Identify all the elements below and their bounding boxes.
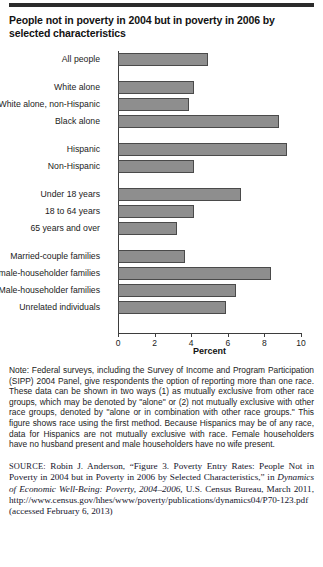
bar-category-label: Under 18 years — [41, 186, 100, 203]
bar — [118, 188, 241, 201]
figure-container: People not in poverty in 2004 but in pov… — [0, 3, 323, 567]
x-axis-tick — [301, 333, 302, 337]
bar-category-label: Black alone — [55, 113, 100, 130]
plot-area: All peopleWhite aloneWhite alone, non-Hi… — [9, 51, 314, 333]
bar-row: All people — [9, 51, 314, 68]
bar — [118, 98, 189, 111]
bar-track — [118, 81, 314, 94]
bar-row: Unrelated individuals — [9, 299, 314, 316]
bar-track — [118, 205, 314, 218]
bar-row: Female-householder families — [9, 265, 314, 282]
bar-category-label: Female-householder families — [0, 265, 100, 282]
bar-row: White alone — [9, 79, 314, 96]
bar — [118, 301, 226, 314]
page-title: People not in poverty in 2004 but in pov… — [9, 14, 314, 40]
bar-category-label: Married-couple families — [10, 248, 100, 265]
source-label: SOURCE: — [9, 462, 46, 471]
figure-source: SOURCE: Robin J. Anderson, “Figure 3. Po… — [9, 461, 314, 518]
bar-rows: All peopleWhite aloneWhite alone, non-Hi… — [9, 51, 314, 316]
bar — [118, 115, 279, 128]
source-part1: Robin J. Anderson, “Figure 3. Poverty En… — [9, 461, 314, 482]
bar-track — [118, 301, 314, 314]
bar-category-label: Hispanic — [67, 141, 100, 158]
bar-category-label: Unrelated individuals — [19, 299, 100, 316]
bar — [118, 160, 194, 173]
bar — [118, 250, 185, 263]
figure-note: Note: Federal surveys, including the Sur… — [9, 365, 314, 450]
bar-row: White alone, non-Hispanic — [9, 96, 314, 113]
bar — [118, 284, 236, 297]
x-axis-tick — [191, 333, 192, 337]
bar — [118, 267, 271, 280]
bar-row: 18 to 64 years — [9, 203, 314, 220]
bar-track — [118, 115, 314, 128]
bar-track — [118, 53, 314, 66]
x-axis-tick — [155, 333, 156, 337]
bar-track — [118, 98, 314, 111]
bar — [118, 143, 287, 156]
bar-row: Hispanic — [9, 141, 314, 158]
bar-category-label: 65 years and over — [30, 220, 100, 237]
bar-category-label: All people — [62, 51, 100, 68]
bar-track — [118, 250, 314, 263]
bar-track — [118, 160, 314, 173]
bar-category-label: White alone, non-Hispanic — [0, 96, 100, 113]
bar-track — [118, 267, 314, 280]
bar-row: Male-householder families — [9, 282, 314, 299]
bar — [118, 81, 194, 94]
bar-track — [118, 284, 314, 297]
x-axis-title: Percent — [118, 346, 301, 356]
bar — [118, 205, 194, 218]
x-axis: 0246810 — [118, 333, 301, 334]
bar-track — [118, 143, 314, 156]
bar — [118, 222, 177, 235]
bar-category-label: 18 to 64 years — [45, 203, 100, 220]
top-rule — [9, 3, 314, 7]
x-axis-tick — [228, 333, 229, 337]
bar — [118, 53, 208, 66]
x-axis-tick — [264, 333, 265, 337]
bar-track — [118, 222, 314, 235]
bar-row: Black alone — [9, 113, 314, 130]
bar-category-label: Non-Hispanic — [48, 158, 100, 175]
bar-row: Under 18 years — [9, 186, 314, 203]
x-axis-tick — [118, 333, 119, 337]
bar-row: Married-couple families — [9, 248, 314, 265]
bar-category-label: Male-householder families — [0, 282, 100, 299]
bar-category-label: White alone — [54, 79, 100, 96]
bar-chart: All peopleWhite aloneWhite alone, non-Hi… — [9, 51, 314, 351]
bar-row: 65 years and over — [9, 220, 314, 237]
bar-track — [118, 188, 314, 201]
bar-row: Non-Hispanic — [9, 158, 314, 175]
